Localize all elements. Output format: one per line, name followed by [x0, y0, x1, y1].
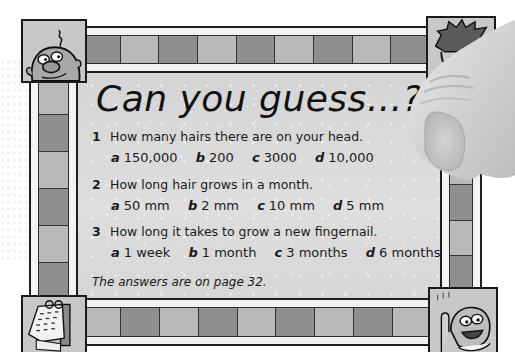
option-b: b200 — [196, 150, 234, 165]
question-text: How long it takes to grow a new fingerna… — [110, 224, 378, 239]
bald-cartoon-face-icon — [21, 19, 87, 83]
question-1: 1How many hairs there are on your head. — [92, 129, 363, 144]
option-b: b1 month — [188, 245, 256, 260]
question-text: How many hairs there are on your head. — [110, 129, 363, 144]
calendar-icon — [21, 295, 87, 352]
question-1-options: a150,000 b200 c3000 d10,000 — [111, 150, 388, 165]
option-a: a150,000 — [111, 150, 178, 165]
question-3: 3How long it takes to grow a new fingern… — [92, 224, 378, 239]
border-left — [29, 80, 78, 298]
question-number: 3 — [92, 224, 110, 239]
border-bottom — [84, 298, 430, 346]
option-c: c3000 — [252, 150, 297, 165]
option-d: d6 months — [366, 245, 441, 260]
question-2: 2How long hair grows in a month. — [92, 177, 313, 192]
smiling-kid-pointing-icon — [428, 287, 498, 352]
question-text: How long hair grows in a month. — [110, 177, 313, 192]
question-3-options: a1 week b1 month c3 months d6 months — [111, 245, 454, 260]
option-d: d5 mm — [333, 198, 384, 213]
border-top — [84, 26, 428, 73]
option-a: a1 week — [111, 245, 170, 260]
option-c: c3 months — [275, 245, 348, 260]
question-number: 2 — [92, 177, 110, 192]
option-c: c10 mm — [257, 198, 315, 213]
page-title: Can you guess...? — [96, 78, 422, 119]
page-texture — [0, 60, 28, 260]
spiky-hair-cartoon-face-icon — [426, 16, 496, 81]
option-a: a50 mm — [111, 198, 170, 213]
activity-page: Can you guess...? 1How many hairs there … — [0, 0, 515, 352]
answers-note: The answers are on page 32. — [92, 275, 267, 289]
question-2-options: a50 mm b2 mm c10 mm d5 mm — [111, 198, 398, 213]
option-d: d10,000 — [315, 150, 374, 165]
question-number: 1 — [92, 129, 110, 144]
option-b: b2 mm — [188, 198, 239, 213]
